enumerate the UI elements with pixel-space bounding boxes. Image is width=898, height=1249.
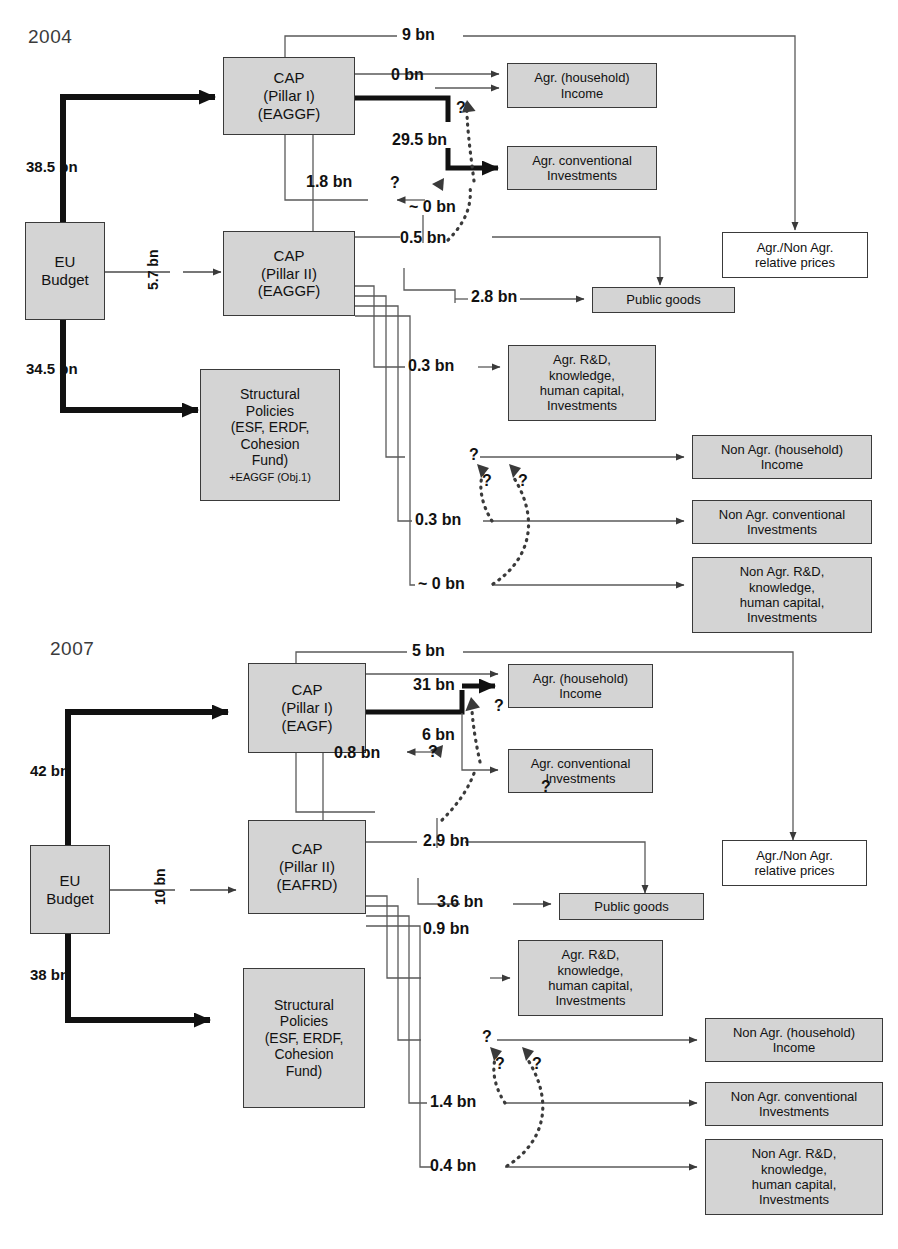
question-mark-icon-2004-b: ?: [390, 174, 400, 192]
node-label: Non Agr. (household) Income: [730, 1025, 858, 1056]
node-label: Non Agr. R&D, knowledge, human capital, …: [737, 564, 828, 625]
amount-budget-to-structural-2004: 34.5 bn: [26, 360, 78, 377]
amount-pillar1-feedback-2004: 1.8 bn: [306, 173, 352, 191]
node-label: Agr. (household) Income: [530, 671, 631, 702]
diagram-canvas: 2004 EU Budget CAP (Pillar I) (EAGGF) CA…: [0, 0, 898, 1249]
node-nonagr-household-income-2007: Non Agr. (household) Income: [705, 1018, 883, 1062]
amount-budget-to-pillar1-2007: 42 bn: [30, 762, 69, 779]
amount-pillar1-to-income-2007: 31 bn: [413, 676, 455, 694]
node-agr-conventional-investments-2007: Agr. conventional Investments: [508, 749, 653, 793]
question-mark-icon-2007-a: ?: [494, 697, 504, 715]
node-agr-conventional-investments-2004: Agr. conventional Investments: [507, 146, 657, 190]
amount-pillar2-to-agr-rd-2004: 0.3 bn: [408, 357, 454, 375]
node-nonagr-conventional-investments-2007: Non Agr. conventional Investments: [705, 1082, 883, 1126]
node-label: Public goods: [623, 292, 703, 307]
node-label: CAP (Pillar I) (EAGF): [278, 681, 336, 734]
amount-pillar1-to-relative-prices-2007: 5 bn: [412, 642, 445, 660]
amount-pillar2-to-public-goods-2007: 3.6 bn: [437, 893, 483, 911]
node-label: Agr. conventional Investments: [529, 153, 635, 184]
question-mark-icon-2007-d: ?: [532, 1055, 542, 1073]
node-label: Agr. (household) Income: [531, 70, 632, 101]
node-nonagr-conventional-investments-2004: Non Agr. conventional Investments: [692, 500, 872, 544]
amount-pillar1-to-income-2004: 0 bn: [391, 66, 424, 84]
amount-pillar2-to-nonagr-income-2004: ?: [469, 446, 479, 464]
node-eu-budget-2007: EU Budget: [30, 845, 110, 934]
amount-pillar2-to-nonagr-conventional-2007: 1.4 bn: [430, 1093, 476, 1111]
amount-pillar2-to-public-goods-2004: 2.8 bn: [471, 288, 517, 306]
amount-budget-to-pillar1-2004: 38.5 bn: [26, 158, 78, 175]
node-relative-prices-2007: Agr./Non Agr. relative prices: [722, 840, 867, 886]
node-cap-pillar2-2004: CAP (Pillar II) (EAGGF): [223, 231, 355, 316]
amount-pillar2-to-nonagr-income-2007: ?: [482, 1028, 492, 1046]
node-label: EU Budget: [38, 253, 92, 288]
node-cap-pillar2-2007: CAP (Pillar II) (EAFRD): [248, 820, 366, 914]
question-mark-icon-2004-d: ?: [518, 472, 528, 490]
node-cap-pillar1-2004: CAP (Pillar I) (EAGGF): [223, 57, 355, 135]
amount-pillar2-to-agr-rd-2007: 0.9 bn: [423, 920, 469, 938]
amount-pillar2-2-9-2007: 2.9 bn: [423, 832, 469, 850]
node-structural-policies-2007: Structural Policies (ESF, ERDF, Cohesion…: [243, 968, 365, 1108]
amount-pillar2-0-5-2004: 0.5 bn: [400, 229, 446, 247]
year-label-2004: 2004: [28, 26, 72, 48]
node-label: Non Agr. R&D, knowledge, human capital, …: [749, 1146, 840, 1207]
amount-budget-to-pillar2-2007: 10 bn: [152, 868, 168, 905]
amount-pillar1-feedback-2007: 0.8 bn: [334, 744, 380, 762]
node-nonagr-rd-2004: Non Agr. R&D, knowledge, human capital, …: [692, 557, 872, 633]
node-structural-policies-2004: Structural Policies (ESF, ERDF, Cohesion…: [200, 369, 340, 501]
node-label: Structural Policies (ESF, ERDF, Cohesion…: [262, 997, 347, 1080]
amount-pillar2-to-nonagr-rd-2007: 0.4 bn: [430, 1157, 476, 1175]
amount-pillar1-to-agr-conventional-2004: 29.5 bn: [392, 131, 447, 149]
node-label: Agr./Non Agr. relative prices: [751, 848, 837, 879]
node-eu-budget-2004: EU Budget: [25, 222, 105, 320]
question-mark-icon-2007-b: ?: [428, 743, 438, 761]
node-nonagr-rd-2007: Non Agr. R&D, knowledge, human capital, …: [705, 1139, 883, 1215]
question-mark-icon-2007-c: ?: [495, 1055, 505, 1073]
amount-budget-to-pillar2-2004: 5.7 bn: [145, 250, 161, 290]
node-public-goods-2007: Public goods: [559, 893, 704, 920]
node-cap-pillar1-2007: CAP (Pillar I) (EAGF): [248, 663, 366, 753]
amount-pillar2-near-zero-2004: ~ 0 bn: [409, 198, 456, 216]
node-label: Public goods: [591, 899, 671, 914]
node-public-goods-2004: Public goods: [592, 287, 735, 313]
node-label: CAP (Pillar I) (EAGGF): [255, 69, 324, 122]
node-label: CAP (Pillar II) (EAFRD): [274, 840, 341, 893]
node-sublabel: +EAGGF (Obj.1): [226, 471, 314, 484]
node-agr-rd-2004: Agr. R&D, knowledge, human capital, Inve…: [508, 345, 656, 421]
node-agr-household-income-2007: Agr. (household) Income: [508, 664, 653, 708]
amount-pillar1-to-agr-conventional-2007: 6 bn: [422, 726, 455, 744]
node-agr-household-income-2004: Agr. (household) Income: [507, 63, 657, 108]
node-nonagr-household-income-2004: Non Agr. (household) Income: [692, 435, 872, 479]
node-agr-rd-2007: Agr. R&D, knowledge, human capital, Inve…: [518, 940, 663, 1016]
question-mark-icon-2004-c: ?: [482, 472, 492, 490]
node-label: Agr. R&D, knowledge, human capital, Inve…: [537, 352, 628, 413]
node-label: Agr./Non Agr. relative prices: [752, 240, 838, 271]
node-label: Non Agr. conventional Investments: [728, 1089, 860, 1120]
node-label: Structural Policies (ESF, ERDF, Cohesion…: [228, 386, 313, 469]
node-label: Agr. R&D, knowledge, human capital, Inve…: [545, 947, 636, 1008]
amount-pillar2-to-nonagr-conventional-2004: 0.3 bn: [415, 511, 461, 529]
node-relative-prices-2004: Agr./Non Agr. relative prices: [722, 232, 868, 278]
node-label: CAP (Pillar II) (EAGGF): [255, 247, 324, 300]
amount-pillar2-to-nonagr-rd-2004: ~ 0 bn: [418, 575, 465, 593]
node-label: EU Budget: [43, 872, 97, 907]
node-label: Non Agr. (household) Income: [718, 442, 846, 473]
amount-budget-to-structural-2007: 38 bn: [30, 966, 69, 983]
question-mark-icon-2004-a: ?: [456, 99, 466, 117]
amount-pillar1-to-relative-prices-2004: 9 bn: [402, 26, 435, 44]
node-label: Non Agr. conventional Investments: [716, 507, 848, 538]
year-label-2007: 2007: [50, 638, 94, 660]
amount-pillar2-to-public-goods-question-2007: ?: [541, 778, 551, 796]
